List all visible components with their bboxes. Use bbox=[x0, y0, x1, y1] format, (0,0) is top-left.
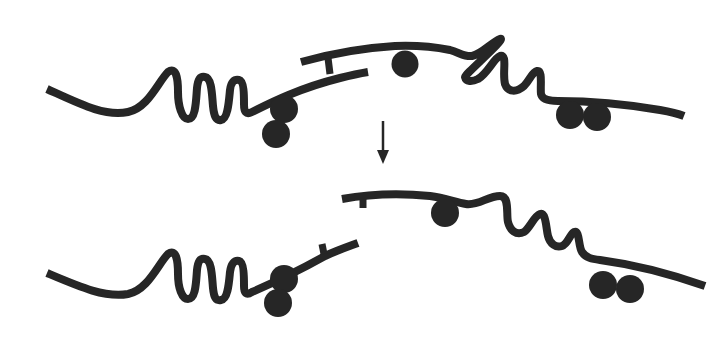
bridge-bar bbox=[328, 58, 330, 74]
left-strand-bottom bbox=[47, 243, 358, 300]
bead bbox=[262, 120, 290, 148]
bead bbox=[431, 199, 459, 227]
panel-after bbox=[47, 194, 705, 317]
right-strand-bottom bbox=[342, 194, 705, 286]
bead bbox=[616, 275, 644, 303]
arrow-down-icon bbox=[377, 121, 389, 164]
bead bbox=[270, 265, 298, 293]
panel-before bbox=[47, 39, 684, 148]
bead bbox=[583, 103, 611, 131]
bead bbox=[264, 289, 292, 317]
diagram-canvas: Two-state schematic: two wavy strands wi… bbox=[0, 0, 722, 340]
bead bbox=[270, 95, 298, 123]
cleaved-stub-left bbox=[322, 244, 324, 254]
bead bbox=[556, 101, 584, 129]
bead bbox=[589, 271, 617, 299]
bead bbox=[392, 51, 419, 78]
left-strand-top bbox=[47, 70, 368, 120]
